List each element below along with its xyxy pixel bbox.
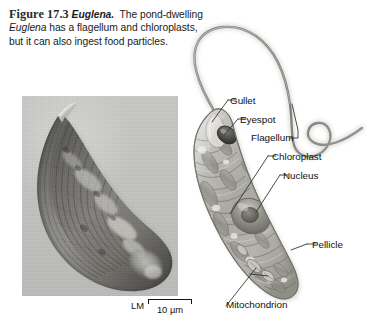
leader-pellicle [291, 244, 307, 250]
label-nucleus: Nucleus [283, 170, 318, 181]
label-pellicle: Pellicle [312, 239, 343, 250]
figure-euglena: Figure 17.3 Euglena. The pond-dwelling E… [0, 0, 366, 322]
leader-nucleus [256, 175, 280, 212]
euglena-illustration [150, 18, 366, 322]
micrograph-technique-label: LM [131, 299, 144, 311]
label-eyespot: Eyespot [240, 114, 275, 125]
label-gullet: Gullet [230, 95, 256, 106]
caption-organism-italic: Euglena [9, 22, 46, 33]
label-chloroplast: Chloroplast [272, 151, 321, 162]
figure-organism-name: Euglena. [72, 9, 115, 20]
label-mitochondrion: Mitochondrion [226, 299, 287, 310]
label-flagellum: Flagellum [251, 132, 293, 143]
figure-number: Figure 17.3 [9, 7, 69, 21]
